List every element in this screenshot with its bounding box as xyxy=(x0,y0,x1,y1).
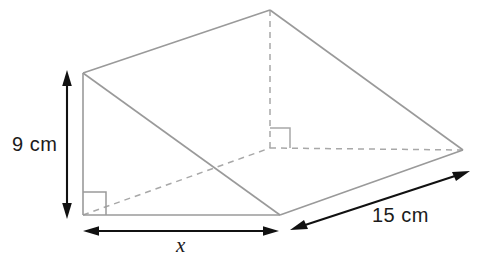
depth-arrow-head-upper-right xyxy=(452,171,470,181)
base-arrow-head-right xyxy=(263,226,279,235)
height-arrow-head-top xyxy=(62,70,72,86)
depth-label: 15 cm xyxy=(372,204,429,226)
base-label: x xyxy=(175,233,186,257)
height-dimension: 9 cm xyxy=(12,70,72,219)
geometry-figure: 9 cm x 15 cm xyxy=(0,0,485,266)
height-arrow-head-bottom xyxy=(62,203,72,219)
base-arrow-head-left xyxy=(83,226,99,235)
depth-arrow-head-lower-left xyxy=(290,220,308,230)
prism-diagram: 9 cm x 15 cm xyxy=(0,0,485,266)
base-dimension: x xyxy=(83,226,279,257)
height-label: 9 cm xyxy=(12,133,57,155)
